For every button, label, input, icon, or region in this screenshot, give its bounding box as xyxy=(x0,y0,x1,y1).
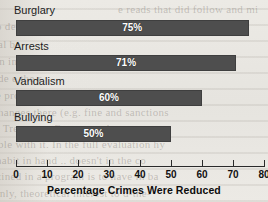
x-axis-tick-label-50: 50 xyxy=(158,169,184,180)
bar-value-label-vandalism: 60% xyxy=(16,90,202,106)
x-axis-tick-80 xyxy=(264,160,265,167)
x-axis-tick-label-70: 70 xyxy=(220,169,246,180)
x-axis-tick-50 xyxy=(171,160,172,167)
category-label-vandalism: Vandalism xyxy=(14,75,65,87)
x-axis-tick-label-20: 20 xyxy=(65,169,91,180)
x-axis-tick-label-30: 30 xyxy=(96,169,122,180)
x-axis-tick-60 xyxy=(202,160,203,167)
x-axis-tick-0 xyxy=(16,160,17,167)
x-axis-tick-label-60: 60 xyxy=(189,169,215,180)
x-axis-title: Percentage Crimes Were Reduced xyxy=(0,184,268,196)
category-label-arrests: Arrests xyxy=(14,40,49,52)
bar-value-label-arrests: 71% xyxy=(16,55,236,71)
x-axis-tick-70 xyxy=(233,160,234,167)
x-axis-tick-30 xyxy=(109,160,110,167)
x-axis-tick-label-10: 10 xyxy=(34,169,60,180)
x-axis-tick-10 xyxy=(47,160,48,167)
x-axis-tick-label-0: 0 xyxy=(3,169,29,180)
x-axis-tick-20 xyxy=(78,160,79,167)
x-axis-tick-label-80: 80 xyxy=(251,169,268,180)
category-label-burglary: Burglary xyxy=(14,4,55,16)
category-label-bullying: Bullying xyxy=(14,111,53,123)
x-axis-tick-label-40: 40 xyxy=(127,169,153,180)
x-axis-tick-40 xyxy=(140,160,141,167)
bar-value-label-burglary: 75% xyxy=(16,20,249,36)
bar-value-label-bullying: 50% xyxy=(16,126,171,142)
bar-chart: Burglary Arrests Vandalism Bullying 75% … xyxy=(0,0,268,202)
